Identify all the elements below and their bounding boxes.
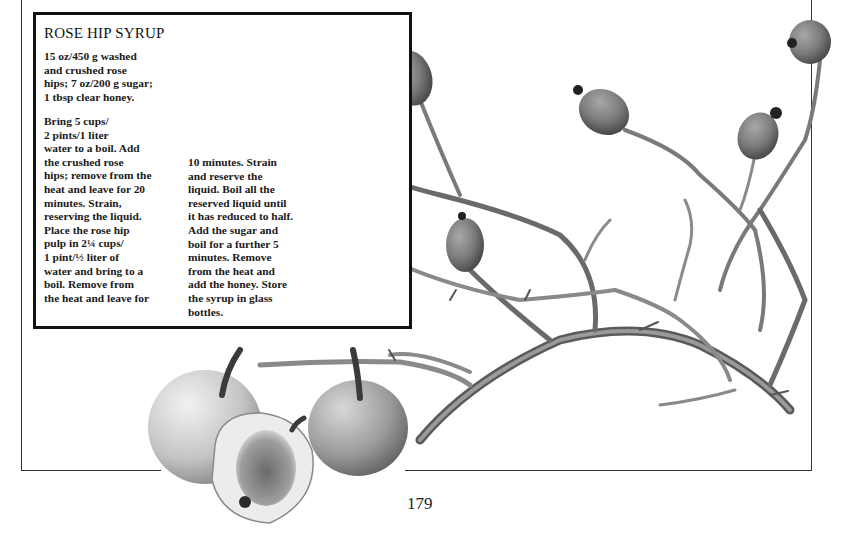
page-number: 179 <box>407 494 433 514</box>
method-line: the syrup in glass <box>188 292 338 306</box>
page-frame-bottom-rule <box>21 470 161 471</box>
method-line: pulp in 2¼ cups/ <box>44 237 194 251</box>
page-frame-left-rule <box>21 0 22 470</box>
method-line: 1 pint/½ liter of <box>44 251 194 265</box>
ingredient-line: hips; 7 oz/200 g sugar; <box>44 77 194 91</box>
method-line: the heat and leave for <box>44 292 194 306</box>
recipe-method-column-1: Bring 5 cups/ 2 pints/1 liter water to a… <box>44 115 194 305</box>
method-line: water and bring to a <box>44 265 194 279</box>
method-line: the crushed rose <box>44 156 194 170</box>
recipe-title: ROSE HIP SYRUP <box>44 25 165 42</box>
apples <box>148 350 408 523</box>
method-line: from the heat and <box>188 265 338 279</box>
page-frame-bottom-rule <box>405 470 812 471</box>
method-line: it has reduced to half. <box>188 210 338 224</box>
book-page: ROSE HIP SYRUP 15 oz/450 g washed and cr… <box>0 0 855 542</box>
method-line: Add the sugar and <box>188 224 338 238</box>
method-line: bottles. <box>188 306 338 320</box>
method-line: and reserve the <box>188 170 338 184</box>
method-line: reserving the liquid. <box>44 210 194 224</box>
method-line: reserved liquid until <box>188 197 338 211</box>
ingredient-line: and crushed rose <box>44 64 194 78</box>
method-line: Bring 5 cups/ <box>44 115 194 129</box>
method-line: liquid. Boil all the <box>188 183 338 197</box>
page-frame-right-rule <box>811 0 812 471</box>
recipe-ingredients: 15 oz/450 g washed and crushed rose hips… <box>44 50 194 104</box>
method-line: heat and leave for 20 <box>44 183 194 197</box>
method-line: minutes. Remove <box>188 251 338 265</box>
method-line: water to a boil. Add <box>44 142 194 156</box>
method-line: 10 minutes. Strain <box>188 156 338 170</box>
ingredient-line: 1 tbsp clear honey. <box>44 91 194 105</box>
recipe-box: ROSE HIP SYRUP 15 oz/450 g washed and cr… <box>33 12 412 329</box>
method-line: minutes. Strain, <box>44 197 194 211</box>
method-line: Place the rose hip <box>44 224 194 238</box>
ingredient-line: 15 oz/450 g washed <box>44 50 194 64</box>
method-line: boil for a further 5 <box>188 238 338 252</box>
method-line: add the honey. Store <box>188 278 338 292</box>
method-line: hips; remove from the <box>44 169 194 183</box>
recipe-method-column-2: 10 minutes. Strain and reserve the liqui… <box>188 156 338 319</box>
method-line: 2 pints/1 liter <box>44 129 194 143</box>
method-line: boil. Remove from <box>44 278 194 292</box>
